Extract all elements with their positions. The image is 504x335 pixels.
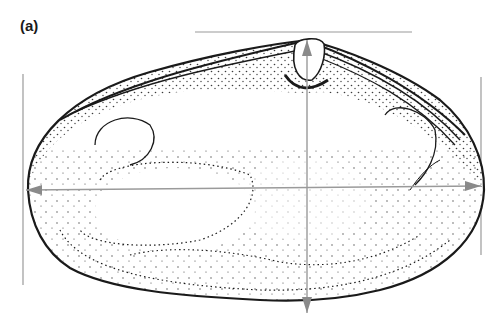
shell-valve bbox=[0, 0, 504, 310]
shell-diagram bbox=[0, 0, 504, 335]
